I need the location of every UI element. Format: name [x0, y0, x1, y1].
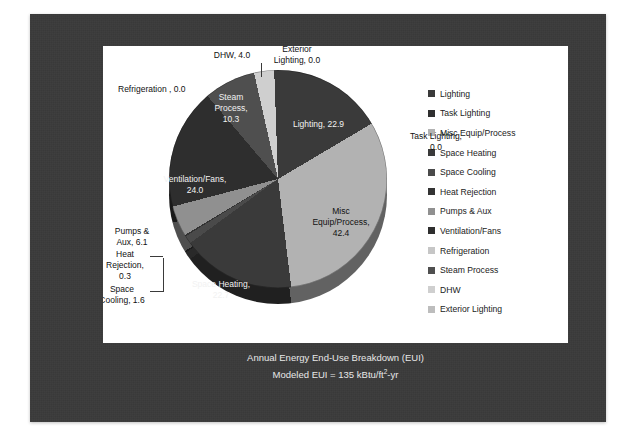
- legend-item[interactable]: DHW: [428, 280, 563, 300]
- legend-item[interactable]: Exterior Lighting: [428, 300, 563, 320]
- slice-label-space-cooling: Space Cooling, 1.6: [103, 284, 149, 306]
- slice-label-refrigeration: Refrigeration , 0.0: [118, 84, 208, 95]
- legend-swatch-icon: [428, 169, 435, 176]
- slice-label-dhw: DHW, 4.0: [201, 50, 263, 61]
- figure-frame: DHW, 4.0 Exterior Lighting, 0.0 Refriger…: [30, 14, 606, 422]
- legend-item[interactable]: Lighting: [428, 84, 563, 104]
- caption-line-1: Annual Energy End-Use Breakdown (EUI): [103, 351, 568, 365]
- legend-swatch-icon: [428, 267, 435, 274]
- figure-caption: Annual Energy End-Use Breakdown (EUI) Mo…: [103, 351, 568, 381]
- legend-swatch-icon: [428, 227, 435, 234]
- legend-swatch-icon: [428, 247, 435, 254]
- legend-item-label: Task Lighting: [440, 108, 490, 118]
- legend-item[interactable]: Refrigeration: [428, 241, 563, 261]
- legend-item[interactable]: Space Cooling: [428, 162, 563, 182]
- legend-item-label: Pumps & Aux: [440, 206, 492, 216]
- legend-item-label: Space Cooling: [440, 167, 496, 177]
- legend-swatch-icon: [428, 286, 435, 293]
- legend-swatch-icon: [428, 208, 435, 215]
- legend-swatch-icon: [428, 110, 435, 117]
- slice-label-task-lighting: Task Lighting, 0.0: [403, 131, 469, 153]
- slice-label-exterior-lighting: Exterior Lighting, 0.0: [266, 46, 328, 66]
- slice-label-lighting: Lighting, 22.9: [293, 119, 373, 130]
- slice-label-space-heating: Space Heating, 22.7: [182, 279, 260, 301]
- legend-item[interactable]: Heat Rejection: [428, 182, 563, 202]
- legend-item-label: DHW: [440, 285, 461, 295]
- slice-label-heat-rejection: Heat Rejection, 0.3: [103, 249, 149, 282]
- legend-swatch-icon: [428, 188, 435, 195]
- legend: Lighting Task Lighting Misc Equip/Proces…: [428, 84, 563, 319]
- caption-eui-pre: Modeled EUI = 135 kBtu/ft: [273, 369, 384, 380]
- leader-line-space-cooling: [150, 291, 163, 292]
- slice-label-pumps-aux: Pumps & Aux, 6.1: [106, 226, 158, 248]
- slice-label-ventilation: Ventilation/Fans, 24.0: [155, 174, 235, 196]
- legend-item[interactable]: Pumps & Aux: [428, 202, 563, 222]
- legend-item[interactable]: Task Lighting: [428, 104, 563, 124]
- legend-item-label: Ventilation/Fans: [440, 226, 501, 236]
- slice-label-steam-process: Steam Process, 10.3: [207, 92, 255, 125]
- legend-swatch-icon: [428, 90, 435, 97]
- leader-line-space-cooling-vert: [163, 258, 164, 292]
- chart-panel: DHW, 4.0 Exterior Lighting, 0.0 Refriger…: [103, 46, 568, 343]
- caption-line-2: Modeled EUI = 135 kBtu/ft2-yr: [103, 365, 568, 382]
- caption-eui-post: -yr: [387, 369, 398, 380]
- legend-item-label: Exterior Lighting: [440, 304, 502, 314]
- legend-item-label: Lighting: [440, 89, 470, 99]
- photographed-page: DHW, 4.0 Exterior Lighting, 0.0 Refriger…: [0, 0, 637, 440]
- legend-item-label: Refrigeration: [440, 246, 489, 256]
- legend-item-label: Heat Rejection: [440, 187, 496, 197]
- legend-item-label: Steam Process: [440, 265, 498, 275]
- legend-swatch-icon: [428, 306, 435, 313]
- slice-label-misc-equip: Misc Equip/Process, 42.4: [303, 206, 379, 239]
- legend-item[interactable]: Ventilation/Fans: [428, 221, 563, 241]
- leader-line-dhw: [261, 63, 262, 77]
- leader-line-heat-rejection: [150, 256, 163, 257]
- legend-item[interactable]: Steam Process: [428, 260, 563, 280]
